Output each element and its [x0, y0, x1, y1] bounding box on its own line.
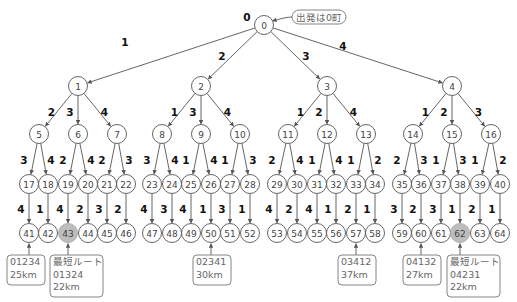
edge-label-11-29: 2	[268, 154, 275, 166]
node-9: 9	[192, 125, 211, 144]
node-43: 43	[59, 224, 78, 243]
edge-label-11-30: 4	[296, 154, 303, 166]
node-59: 59	[393, 224, 412, 243]
node-3: 3	[318, 77, 337, 96]
edge-16-39	[482, 143, 489, 174]
node-label: 8	[159, 130, 165, 140]
node-label: 30	[291, 180, 303, 190]
edge-5-18	[41, 143, 47, 174]
node-label: 63	[474, 229, 485, 239]
node-label: 49	[185, 229, 197, 239]
node-50: 50	[202, 224, 221, 243]
node-label: 12	[321, 130, 332, 140]
node-16: 16	[482, 125, 501, 144]
node-label: 46	[120, 229, 132, 239]
node-45: 45	[98, 224, 117, 243]
node-44: 44	[79, 224, 98, 243]
edge-label-3-12: 2	[315, 106, 322, 118]
node-label: 9	[198, 130, 204, 140]
edge-label-14-36: 3	[420, 154, 427, 166]
node-label: 0	[261, 21, 267, 31]
node-19: 19	[59, 175, 78, 194]
edge-label-13-34: 2	[374, 154, 381, 166]
edge-label-9-25: 1	[182, 154, 189, 166]
edge-label-34-58: 1	[363, 203, 370, 215]
node-label: 39	[474, 180, 486, 190]
node-36: 36	[412, 175, 431, 194]
edge-label-14-35: 2	[393, 154, 400, 166]
node-12: 12	[318, 125, 337, 144]
edge-label-0-2: 2	[218, 50, 225, 62]
node-label: 60	[415, 229, 427, 239]
node-54: 54	[288, 224, 307, 243]
edge-16-40	[493, 143, 499, 174]
node-35: 35	[393, 175, 412, 194]
start-callout-text: 出発は0町	[296, 12, 342, 23]
edge-label-26-50: 1	[199, 203, 206, 215]
edge-label-30-54: 2	[285, 203, 292, 215]
node-label: 62	[454, 229, 465, 239]
node-48: 48	[163, 224, 182, 243]
edge-label-1-5: 2	[48, 106, 55, 118]
edge-label-10-28: 3	[249, 154, 256, 166]
node-55: 55	[308, 224, 327, 243]
edge-label-18-42: 1	[36, 203, 43, 215]
edge-label-38-62: 1	[448, 203, 455, 215]
node-label: 57	[350, 229, 361, 239]
node-47: 47	[143, 224, 162, 243]
edge-label-1-6: 3	[66, 106, 73, 118]
edge-label-4-16: 3	[475, 106, 482, 118]
edge-10-27	[232, 143, 238, 174]
node-label: 52	[244, 229, 255, 239]
edge-9-25	[193, 143, 199, 174]
node-10: 10	[231, 125, 250, 144]
node-label: 50	[205, 229, 217, 239]
node-49: 49	[182, 224, 201, 243]
edge-11-29	[279, 143, 286, 174]
node-25: 25	[182, 175, 201, 194]
node-label: 21	[101, 180, 112, 190]
edge-12-32	[329, 143, 335, 174]
start-callout: 出発は0町	[292, 10, 346, 24]
start-callout-pointer	[273, 17, 293, 21]
node-label: 36	[415, 180, 427, 190]
route-box: 0123425km	[7, 244, 45, 286]
route-box: 0413227km	[403, 244, 441, 286]
node-label: 55	[311, 229, 322, 239]
route-box-line: 最短ルート	[450, 256, 500, 267]
node-label: 14	[407, 130, 419, 140]
edge-label-6-20: 4	[87, 154, 94, 166]
node-label: 19	[62, 180, 74, 190]
node-15: 15	[443, 125, 462, 144]
edge-label-20-44: 2	[76, 203, 83, 215]
edge-15-38	[454, 143, 459, 174]
shortest-route-box: 最短ルート0132422km	[50, 244, 103, 298]
node-24: 24	[163, 175, 182, 194]
edge-8-23	[154, 143, 160, 174]
node-label: 64	[494, 229, 506, 239]
route-box-line: 22km	[53, 281, 80, 292]
route-box: 0341237km	[338, 244, 376, 286]
node-29: 29	[268, 175, 287, 194]
edge-label-31-55: 4	[305, 203, 312, 215]
route-box-line: 37km	[341, 269, 368, 280]
edge-7-21	[109, 143, 115, 174]
node-63: 63	[471, 224, 490, 243]
edge-label-40-64: 1	[488, 203, 495, 215]
edge-label-10-27: 1	[221, 154, 228, 166]
edge-label-0-1: 1	[121, 36, 128, 48]
node-label: 1	[75, 82, 81, 92]
route-box-line: 01324	[53, 269, 83, 280]
edge-label-7-21: 2	[98, 154, 105, 166]
node-label: 59	[396, 229, 408, 239]
node-64: 64	[491, 224, 510, 243]
route-tree-diagram: 0123423413412412334242334141324141223131…	[0, 0, 517, 302]
edge-label-35-59: 3	[390, 203, 397, 215]
edge-label-2-10: 4	[224, 106, 231, 118]
node-42: 42	[39, 224, 58, 243]
node-label: 45	[101, 229, 112, 239]
edge-label-13-33: 1	[347, 154, 354, 166]
edge-label-4-14: 1	[422, 106, 429, 118]
node-label: 16	[485, 130, 497, 140]
node-label: 23	[146, 180, 157, 190]
